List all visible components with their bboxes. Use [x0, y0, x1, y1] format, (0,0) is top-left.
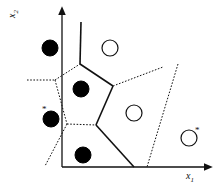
upper-right-branch-edge — [113, 67, 163, 86]
lower-right-descending-edge — [96, 125, 134, 167]
y-axis-label-text: x — [6, 14, 17, 18]
x-axis-label: x1 — [186, 170, 194, 184]
x-axis-label-subscript: 1 — [190, 176, 194, 184]
lower-left-descending-edge — [45, 124, 67, 166]
class-filled-marker — [42, 40, 58, 56]
voronoi-figure: x2 x1 ** — [0, 0, 213, 184]
class-filled-marker — [73, 81, 89, 97]
voronoi-plot — [0, 0, 213, 184]
y-axis-label-subscript: 2 — [12, 10, 20, 14]
pentagon-lower-right-edge — [96, 86, 113, 125]
data-points-group — [42, 40, 197, 163]
asterisk-icon: * — [42, 105, 47, 114]
class-open-marker — [126, 105, 142, 121]
pentagon-upper-left-edge — [55, 64, 80, 80]
top-vertical-edge — [80, 22, 81, 64]
pentagon-bottom-edge — [67, 124, 96, 125]
right-long-diagonal-edge — [147, 64, 178, 167]
class-open-marker — [102, 40, 118, 56]
asterisk-icon: * — [195, 126, 200, 135]
y-axis-label: x2 — [6, 10, 20, 18]
class-filled-marker — [75, 147, 91, 163]
